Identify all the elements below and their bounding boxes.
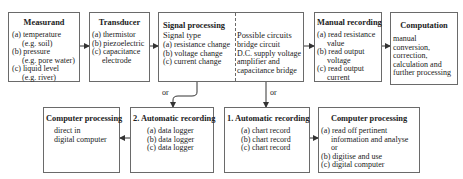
- transducer-box: Transducer (a) thermistor (b) piezoelect…: [89, 12, 150, 82]
- computer-processing-direct-title: Computer processing: [46, 114, 117, 124]
- computer-processing-analyse-title: Computer processing: [321, 114, 417, 124]
- manual-recording-box: Manual recording (a) read resistance val…: [314, 12, 382, 82]
- computer-processing-analyse-box: Computer processing (a) read off pertine…: [318, 107, 420, 173]
- computer-processing-direct-item: digital computer: [54, 136, 117, 145]
- signal-processing-box: Signal processing Signal type (a) resist…: [158, 12, 304, 82]
- signal-processing-title: Signal processing: [163, 21, 230, 31]
- automatic-recording-2-box: 2. Automatic recording (a) data logger (…: [130, 107, 214, 173]
- automatic-recording-1-item: (c) chart record: [241, 144, 307, 153]
- computation-item: further processing: [393, 69, 455, 78]
- or-label-left: or: [162, 88, 169, 97]
- manual-recording-item: current: [317, 74, 379, 83]
- manual-recording-title: Manual recording: [317, 18, 379, 28]
- measurand-box: Measurand (a) temperature (e.g. soil) (b…: [8, 12, 80, 82]
- dashed-divider: [235, 13, 236, 81]
- computation-box: Computation manual conversion, correctio…: [390, 12, 458, 85]
- automatic-recording-1-box: 1. Automatic recording (a) chart record …: [224, 107, 310, 173]
- measurand-item: (e.g. river): [12, 74, 76, 83]
- transducer-item: electrode: [92, 57, 147, 66]
- computer-processing-direct-box: Computer processing direct in digital co…: [43, 107, 120, 173]
- computation-title: Computation: [393, 21, 455, 31]
- or-label-right: or: [270, 88, 277, 97]
- possible-circuit-item: capacitance bridge: [237, 67, 301, 76]
- transducer-title: Transducer: [92, 18, 147, 28]
- automatic-recording-2-item: (c) data logger: [147, 144, 211, 153]
- measurand-title: Measurand: [12, 18, 76, 28]
- computer-processing-analyse-item: (c) digital computer: [321, 161, 417, 170]
- automatic-recording-2-title: 2. Automatic recording: [133, 114, 211, 124]
- automatic-recording-1-title: 1. Automatic recording: [227, 114, 307, 124]
- signal-type-item: (c) current change: [163, 58, 230, 67]
